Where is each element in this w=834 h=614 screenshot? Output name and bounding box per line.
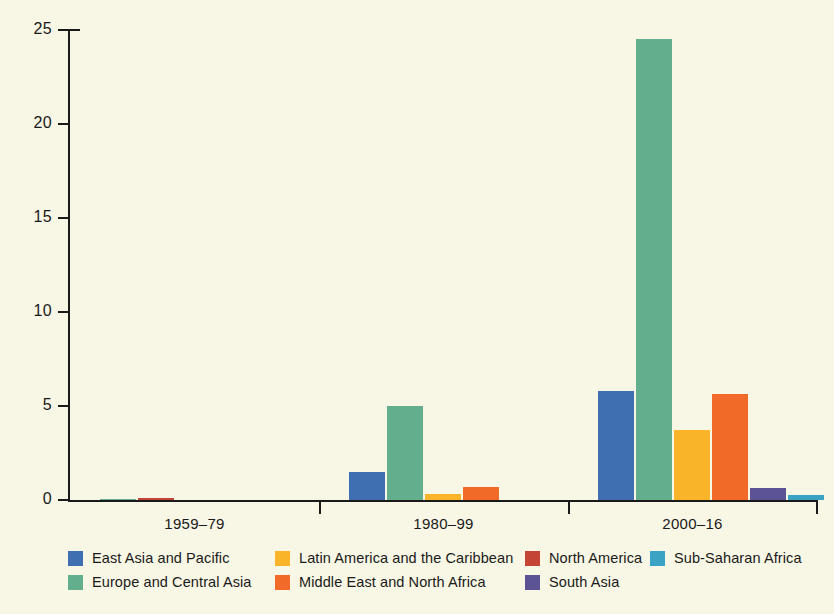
- legend-swatch-icon: [275, 551, 290, 566]
- legend-item[interactable]: North America: [525, 550, 642, 566]
- legend-item[interactable]: South Asia: [525, 574, 619, 590]
- legend-item[interactable]: East Asia and Pacific: [68, 550, 230, 566]
- y-tick-label: 5: [2, 396, 52, 414]
- legend-item[interactable]: Sub-Saharan Africa: [650, 550, 802, 566]
- y-tick-15: [58, 217, 70, 219]
- legend-label: South Asia: [549, 574, 619, 590]
- x-axis-right-cap: [816, 500, 818, 514]
- legend-swatch-icon: [650, 551, 665, 566]
- x-tick-1: [319, 500, 321, 514]
- legend-label: East Asia and Pacific: [92, 550, 230, 566]
- y-tick-0: [58, 499, 70, 501]
- bar: [674, 430, 710, 500]
- y-tick-25: [58, 29, 70, 31]
- legend-item[interactable]: Europe and Central Asia: [68, 574, 252, 590]
- plot-area: 0510152025 1959–791980–992000–16: [0, 0, 834, 545]
- legend-label: Sub-Saharan Africa: [674, 550, 802, 566]
- bar: [598, 391, 634, 500]
- bar: [712, 394, 748, 500]
- bar-chart-figure: 0510152025 1959–791980–992000–16 East As…: [0, 0, 834, 614]
- y-tick-label: 0: [2, 490, 52, 508]
- x-tick-label: 1980–99: [319, 515, 568, 532]
- legend-item[interactable]: Latin America and the Caribbean: [275, 550, 513, 566]
- legend-label: Middle East and North Africa: [299, 574, 486, 590]
- y-tick-label: 10: [2, 302, 52, 320]
- legend-item[interactable]: Middle East and North Africa: [275, 574, 486, 590]
- bar: [636, 39, 672, 500]
- x-tick-label: 1959–79: [70, 515, 319, 532]
- bars-layer: [0, 0, 834, 500]
- bar: [463, 487, 499, 500]
- bar: [387, 406, 423, 500]
- legend-label: Europe and Central Asia: [92, 574, 252, 590]
- x-axis-line: [68, 500, 818, 502]
- legend-swatch-icon: [525, 575, 540, 590]
- legend-label: Latin America and the Caribbean: [299, 550, 513, 566]
- bar: [349, 472, 385, 500]
- bar: [750, 488, 786, 500]
- y-tick-label: 15: [2, 208, 52, 226]
- legend-swatch-icon: [275, 575, 290, 590]
- y-tick-10: [58, 311, 70, 313]
- y-axis-line: [68, 29, 70, 502]
- y-tick-20: [58, 123, 70, 125]
- x-tick-2: [568, 500, 570, 514]
- legend-swatch-icon: [68, 551, 83, 566]
- chart-legend: East Asia and PacificEurope and Central …: [0, 548, 834, 614]
- y-tick-label: 25: [2, 20, 52, 38]
- y-tick-label: 20: [2, 114, 52, 132]
- legend-swatch-icon: [525, 551, 540, 566]
- legend-swatch-icon: [68, 575, 83, 590]
- x-tick-label: 2000–16: [568, 515, 817, 532]
- legend-label: North America: [549, 550, 642, 566]
- y-tick-5: [58, 405, 70, 407]
